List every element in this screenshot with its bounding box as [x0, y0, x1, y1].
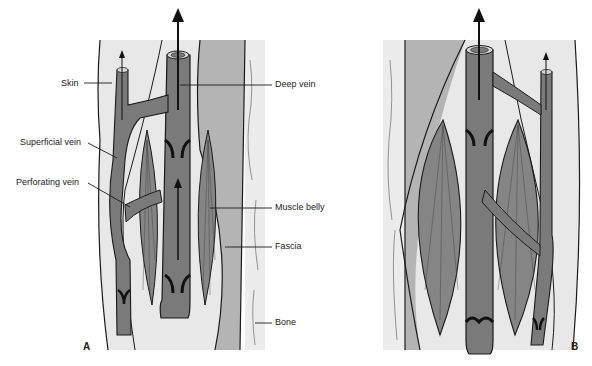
- panel-b-diagram: [383, 8, 580, 354]
- label-fascia: Fascia: [275, 241, 302, 251]
- label-superficial-vein: Superficial vein: [20, 137, 81, 147]
- bone-a: [245, 40, 265, 350]
- panel-letter-a: A: [83, 341, 90, 352]
- label-deep-vein: Deep vein: [275, 79, 316, 89]
- label-skin: Skin: [61, 78, 79, 88]
- label-bone: Bone: [275, 317, 296, 327]
- label-muscle-belly: Muscle belly: [275, 202, 325, 212]
- panel-letter-b: B: [571, 341, 578, 352]
- bone-b: [383, 40, 405, 350]
- figure-canvas: [0, 0, 592, 366]
- panel-a-diagram: [98, 8, 265, 350]
- label-perforating-vein: Perforating vein: [16, 177, 79, 187]
